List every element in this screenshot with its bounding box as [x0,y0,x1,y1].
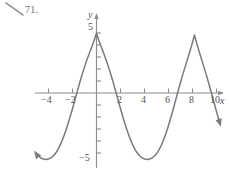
x-axis-ticks [49,89,217,94]
x-tick-label-6: 6 [165,94,170,105]
y-tick-label-5: 5 [88,21,93,32]
coordinate-graph [0,0,229,174]
x-tick-label--2: −2 [65,94,76,105]
x-axis [35,89,223,94]
x-tick-label-10: 10 [210,94,220,105]
x-tick-label-8: 8 [189,94,194,105]
x-tick-label--4: −4 [41,94,52,105]
x-tick-label-2: 2 [117,94,122,105]
y-axis-label: y [88,9,92,20]
x-tick-label-4: 4 [141,94,146,105]
x-axis-label: x [220,95,224,106]
y-tick-label--5: −5 [79,152,90,163]
